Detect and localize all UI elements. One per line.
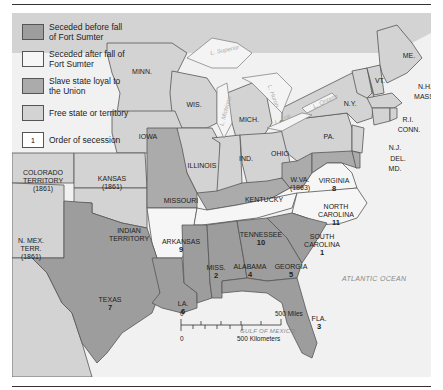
label-mich: MICH. (239, 116, 259, 124)
legend-swatch (22, 51, 44, 67)
bottom-rule (12, 386, 431, 387)
label-iowa: IOWA (139, 133, 157, 141)
label-nj: N.J. (389, 144, 401, 152)
label-arkansas: ARKANSAS9 (162, 238, 200, 254)
secession-map: Seceded before fall of Fort Sumter Seced… (12, 13, 431, 377)
state-conn (372, 108, 390, 125)
label-conn: CONN. (398, 126, 421, 134)
label-indian: INDIAN TERRITORY (104, 227, 154, 243)
state-nj (352, 125, 364, 153)
top-rule (12, 4, 431, 5)
label-minn: MINN. (132, 68, 152, 76)
legend-item-free: Free state or territory (22, 102, 139, 124)
legend-swatch-number: 1 (22, 132, 44, 148)
label-md: MD. (389, 165, 402, 173)
label-illinois: ILLINOIS (188, 162, 217, 170)
label-nh: N.H. (418, 83, 431, 91)
legend: Seceded before fall of Fort Sumter Seced… (22, 21, 139, 156)
label-fla: FLA.3 (312, 315, 327, 331)
scale-ticks (180, 318, 285, 332)
label-ncarolina: NORTH CAROLINA11 (311, 203, 361, 227)
label-miss: MISS.2 (206, 264, 225, 280)
legend-item-order: 1 Order of secession (22, 129, 139, 151)
state-ri (390, 108, 397, 121)
label-texas: TEXAS7 (99, 296, 122, 312)
legend-item-seceded-after: Seceded after fall of Fort Sumter (22, 48, 139, 70)
scale-bar: 0 500 Miles 0 500 Kilometers (180, 310, 310, 350)
label-ind: IND. (239, 155, 253, 163)
label-atlantic-ocean: ATLANTIC OCEAN (342, 275, 406, 282)
label-vt: VT. (375, 77, 385, 85)
label-del: DEL. (390, 155, 406, 163)
legend-swatch (22, 24, 44, 40)
label-ohio: OHIO (271, 150, 289, 158)
label-georgia: GEORGIA5 (275, 263, 308, 279)
label-missouri: MISSOURI (164, 197, 199, 205)
label-alabama: ALABAMA4 (233, 263, 266, 279)
label-ny: N.Y. (344, 100, 357, 108)
legend-swatch (22, 78, 44, 94)
label-tennessee: TENNESSEE10 (240, 231, 282, 247)
label-nmex: N. MEX. TERR.(1861) (12, 237, 51, 261)
label-kentucky: KENTUCKY (245, 196, 283, 204)
legend-swatch (22, 105, 44, 121)
legend-item-seceded-before: Seceded before fall of Fort Sumter (22, 21, 139, 43)
label-wis: WIS. (186, 101, 201, 109)
label-ri: R.I. (403, 116, 414, 124)
label-scarolina: SOUTH CAROLINA1 (297, 233, 347, 257)
legend-item-slave-loyal: Slave state loyal to the Union (22, 75, 139, 97)
label-pa: PA. (324, 133, 335, 141)
label-kansas: KANSAS(1861) (98, 175, 126, 191)
label-wva: W.VA.(1863) (290, 176, 310, 192)
label-virginia: VIRGINIA8 (319, 177, 350, 193)
label-me: ME. (403, 52, 415, 60)
label-colorado: COLORADO TERRITORY(1861) (13, 169, 73, 193)
label-mass: MASS. (414, 93, 431, 101)
